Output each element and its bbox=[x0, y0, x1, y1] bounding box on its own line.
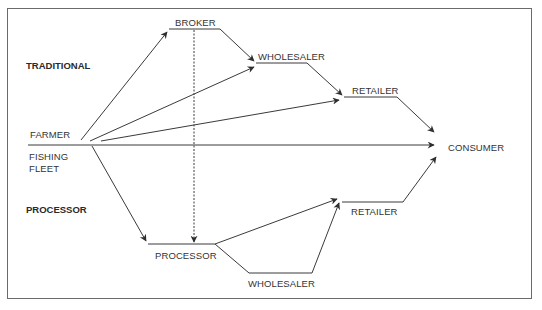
node-fishing-fleet-line1: FISHING bbox=[29, 151, 68, 162]
arrow-farmer-to-broker bbox=[81, 32, 167, 140]
node-broker: BROKER bbox=[175, 17, 216, 28]
node-processor: PROCESSOR bbox=[155, 250, 217, 261]
retailer-processor-underline bbox=[342, 157, 436, 202]
node-wholesaler-processor: WHOLESALER bbox=[248, 278, 315, 289]
broker-underline bbox=[169, 29, 254, 61]
section-label-processor: PROCESSOR bbox=[26, 204, 87, 215]
arrow-fleet-to-processor bbox=[92, 146, 146, 241]
node-farmer: FARMER bbox=[30, 129, 70, 140]
flow-lines bbox=[0, 0, 542, 310]
processor-to-wholesaler-to-retailer bbox=[215, 203, 339, 273]
node-retailer-processor: RETAILER bbox=[351, 206, 398, 217]
processor-underline bbox=[148, 199, 337, 244]
arrow-farmer-to-wholesaler bbox=[90, 67, 254, 141]
arrow-farmer-to-retailer bbox=[101, 100, 339, 141]
node-fishing-fleet-line2: FLEET bbox=[29, 163, 59, 174]
node-wholesaler-traditional: WHOLESALER bbox=[258, 51, 325, 62]
wholesaler-traditional-underline bbox=[256, 63, 342, 95]
node-retailer-traditional: RETAILER bbox=[352, 85, 399, 96]
section-label-traditional: TRADITIONAL bbox=[26, 60, 90, 71]
node-consumer: CONSUMER bbox=[448, 142, 504, 153]
retailer-traditional-underline bbox=[344, 97, 434, 132]
